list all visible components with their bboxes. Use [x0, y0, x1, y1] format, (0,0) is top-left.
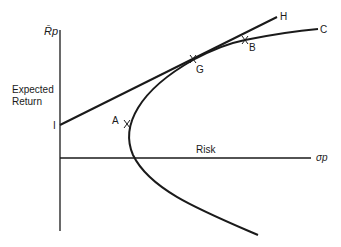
x-axis-title: Risk: [196, 144, 215, 155]
label-G: G: [196, 64, 204, 75]
label-A: A: [112, 115, 119, 126]
capital-market-line-IH: [60, 17, 277, 125]
label-B: B: [249, 42, 256, 53]
y-axis-title-line2: Return: [12, 96, 42, 107]
efficient-frontier-diagram: [0, 0, 341, 247]
y-axis-symbol: R̄p: [44, 26, 58, 37]
point-marker-A: [124, 120, 130, 128]
x-axis-symbol: σp: [316, 152, 328, 163]
label-H: H: [280, 11, 287, 22]
label-C: C: [320, 24, 327, 35]
label-I: I: [53, 120, 56, 131]
efficient-frontier-curve: [129, 29, 318, 235]
y-axis-title-line1: Expected: [12, 84, 54, 95]
